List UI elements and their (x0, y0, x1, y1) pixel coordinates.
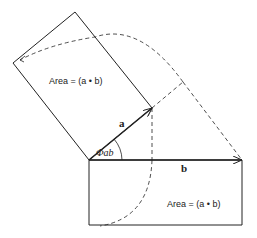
angle-arc (114, 139, 122, 160)
b-tip-dashed-line (183, 82, 242, 160)
upper-area-label: Area = (a • b) (49, 76, 102, 86)
extension-dashed-line (152, 82, 183, 108)
lower-area-rectangle (89, 160, 242, 225)
upper-area-rectangle (13, 12, 152, 160)
upper-dashed-arc (20, 34, 183, 82)
lower-dashed-arc (100, 160, 152, 226)
vector-b-label: b (181, 162, 187, 174)
dot-product-diagram: Area = (a • b) Area = (a • b) a b Φab (0, 0, 257, 238)
angle-label: Φab (96, 147, 114, 158)
lower-area-label: Area = (a • b) (167, 199, 220, 209)
vector-a-label: a (119, 117, 125, 129)
